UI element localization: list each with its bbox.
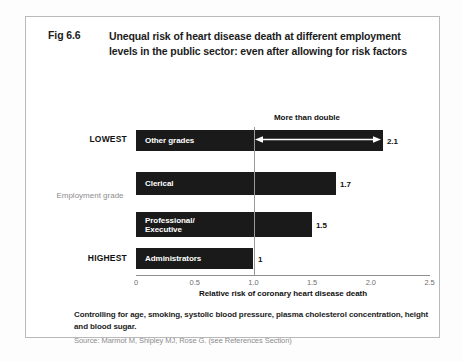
footnote-note: Controlling for age, smoking, systolic b… <box>74 309 444 332</box>
annotation-more-than-double: More than double <box>274 113 340 122</box>
double-headed-arrow-icon <box>255 134 381 145</box>
x-tick-label: 1.0 <box>248 278 258 287</box>
reference-line-at-one <box>254 127 256 275</box>
page-background: Fig 6.6 Unequal risk of heart disease de… <box>0 0 462 362</box>
bar-value: 1.7 <box>340 179 351 188</box>
x-tick-label: 2.5 <box>424 278 434 287</box>
bar-row: Clerical 1.7 <box>136 172 336 195</box>
x-tick-label: 0 <box>134 278 138 287</box>
x-axis-title: Relative risk of coronary heart disease … <box>136 289 430 298</box>
bar-row: Professional/ Executive 1.5 <box>136 212 313 237</box>
footnote-source: Source: Marmot M, Shipley MJ, Rose G. (s… <box>74 336 444 345</box>
bar-label: Professional/ Executive <box>145 215 195 234</box>
x-tick-label: 2.0 <box>366 278 376 287</box>
y-axis-title: Employment grade <box>53 191 127 201</box>
bar-value: 2.1 <box>387 136 398 145</box>
bar-row: Administrators 1 <box>136 248 254 269</box>
x-tick-label: 0.5 <box>190 278 200 287</box>
bar-value: 1.5 <box>316 220 327 229</box>
bar-label: Administrators <box>145 254 201 264</box>
axis-label-lowest: LOWEST <box>59 134 127 144</box>
axis-label-highest: HIGHEST <box>59 253 127 263</box>
bar-value: 1 <box>258 254 262 263</box>
x-tick-label: 1.5 <box>307 278 317 287</box>
bar-label: Clerical <box>145 179 174 189</box>
figure-footnote: Controlling for age, smoking, systolic b… <box>74 309 444 345</box>
bar-label: Other grades <box>145 136 194 146</box>
x-axis-line <box>136 275 430 277</box>
figure-frame: Fig 6.6 Unequal risk of heart disease de… <box>25 16 440 338</box>
